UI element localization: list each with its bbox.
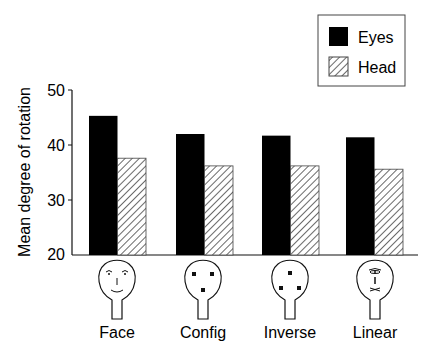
legend-swatch-eyes [329,27,348,46]
category-label-linear: Linear [353,324,398,341]
tick-30: 30 [47,192,65,209]
linear-vertical-features-icon [357,260,393,319]
y-axis-label: Mean degree of rotation [16,87,33,257]
bar-inverse-head [291,166,320,255]
bar-linear-head [375,169,404,255]
legend: Eyes Head [318,15,405,86]
legend-swatch-head [329,57,348,76]
chart: Mean degree of rotation 50 40 30 20 Eyes… [0,0,431,354]
tick-50: 50 [47,82,65,99]
bar-config-eyes [176,134,205,255]
legend-label-head: Head [358,59,396,76]
legend-label-eyes: Eyes [358,29,394,46]
tick-20: 20 [47,246,65,263]
bar-face-eyes [89,116,118,255]
category-label-face: Face [99,324,135,341]
category-label-inverse: Inverse [264,324,317,341]
category-label-config: Config [180,324,226,341]
inverse-three-squares-icon [272,260,308,319]
bar-linear-eyes [346,137,375,255]
bar-inverse-eyes [262,136,291,255]
bar-config-head [205,166,234,255]
y-ticks: 50 40 30 20 [47,82,72,263]
bar-face-head [118,158,147,255]
config-three-squares-icon [185,260,221,319]
bars [89,116,403,255]
face-schematic-icon [99,260,135,319]
tick-40: 40 [47,137,65,154]
